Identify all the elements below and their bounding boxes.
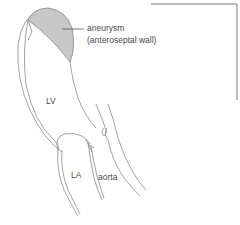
mitral-valve — [86, 140, 94, 152]
la-left-wall-a — [58, 150, 78, 216]
la-right-wall-a — [88, 142, 102, 200]
la-outer — [57, 133, 90, 150]
lv-label: LV — [46, 96, 56, 106]
aorta-label: aorta — [98, 172, 117, 182]
heart-diagram — [0, 0, 240, 225]
la-left-wall-b — [62, 150, 80, 214]
aneurysm-label: aneurysm — [87, 23, 124, 33]
aorta-wall-left — [96, 104, 140, 196]
la-label: LA — [71, 170, 81, 180]
frame-line — [151, 4, 237, 100]
septum-wall — [70, 62, 96, 128]
aneurysm-region — [28, 8, 74, 62]
aneurysm-detail-label: (anteroseptal wall) — [87, 35, 156, 45]
